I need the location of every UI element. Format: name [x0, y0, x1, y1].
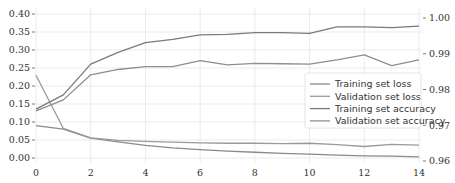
- y2-tick-label: 0.98: [429, 84, 450, 95]
- legend: Training set lossValidation set lossTrai…: [305, 73, 446, 128]
- y-tick-label: 0.15: [9, 98, 30, 109]
- y2-tick-label: 0.96: [429, 155, 450, 166]
- y2-tick-label: 1.00: [429, 12, 450, 23]
- y-tick-label: 0.20: [9, 80, 30, 91]
- y-tick-label: 0.40: [9, 8, 30, 19]
- training-curves-chart: 0.000.050.100.150.200.250.300.350.40 0.9…: [0, 0, 455, 183]
- y-tick-label: 0.35: [9, 26, 30, 37]
- legend-label: Validation set accuracy: [335, 115, 446, 126]
- legend-label: Validation set loss: [335, 91, 421, 102]
- x-tick-label: 0: [33, 167, 39, 178]
- x-tick-label: 8: [252, 167, 258, 178]
- x-axis: 02468101214: [33, 167, 425, 178]
- y2-tick-label: 0.99: [429, 48, 450, 59]
- legend-label: Training set loss: [334, 78, 411, 89]
- y-tick-label: 0.10: [9, 116, 30, 127]
- left-y-axis: 0.000.050.100.150.200.250.300.350.40: [9, 8, 35, 163]
- x-tick-label: 2: [88, 167, 94, 178]
- training-set-loss-line: [36, 126, 419, 157]
- x-tick-label: 10: [304, 167, 316, 178]
- legend-label: Training set accuracy: [334, 103, 436, 114]
- y-tick-label: 0.30: [9, 44, 30, 55]
- y-tick-label: 0.00: [9, 152, 30, 163]
- x-tick-label: 6: [197, 167, 203, 178]
- x-tick-label: 12: [358, 167, 370, 178]
- right-y-axis: 0.960.970.980.991.00: [423, 12, 450, 166]
- y-tick-label: 0.05: [9, 134, 30, 145]
- y-tick-label: 0.25: [9, 62, 30, 73]
- x-tick-label: 4: [142, 167, 148, 178]
- x-tick-label: 14: [413, 167, 425, 178]
